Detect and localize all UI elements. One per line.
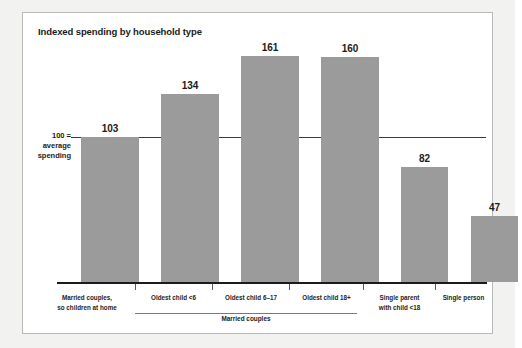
category-label-line: with child <18 <box>364 303 435 313</box>
bar-rect[interactable] <box>321 57 379 282</box>
bar-value-label: 47 <box>451 202 522 213</box>
bar-group-4: 82 <box>401 13 448 282</box>
bar-rect[interactable] <box>241 56 299 282</box>
group-bracket-line <box>135 313 357 314</box>
bar-group-1: 134 <box>161 13 219 282</box>
category-label-line: Oldest child 6–17 <box>213 293 289 303</box>
bar-value-label: 160 <box>301 43 399 54</box>
bar-rect[interactable] <box>401 167 448 282</box>
category-label-4: Single parent with child <18 <box>364 293 435 312</box>
bar-value-label: 82 <box>381 153 468 164</box>
bar-rect[interactable] <box>81 137 139 282</box>
category-label-line: Married couples, <box>45 293 129 303</box>
bar-value-label: 103 <box>61 123 159 134</box>
axis-tick <box>212 284 213 290</box>
category-label-line: Oldest child <6 <box>136 293 211 303</box>
bar-group-5: 47 <box>471 13 518 282</box>
axis-tick <box>289 284 290 290</box>
bars-layer: 103 134 161 160 82 <box>57 13 487 282</box>
group-bracket-label: Married couples <box>135 315 357 322</box>
category-label-1: Oldest child <6 <box>136 293 211 303</box>
bar-rect[interactable] <box>161 94 219 282</box>
bar-group-2: 161 <box>241 13 299 282</box>
plot-area: 100 = average spending 103 134 161 <box>23 13 492 333</box>
category-label-2: Oldest child 6–17 <box>213 293 289 303</box>
axis-tick <box>135 284 136 290</box>
bar-group-0: 103 <box>81 13 139 282</box>
bar-value-label: 134 <box>141 80 239 91</box>
axis-tick <box>363 284 364 290</box>
category-label-3: Oldest child 18+ <box>290 293 363 303</box>
chart-frame: Indexed spending by household type 100 =… <box>22 12 493 334</box>
category-label-line: Single person <box>436 293 491 303</box>
category-label-line: Oldest child 18+ <box>290 293 363 303</box>
bar-group-3: 160 <box>321 13 379 282</box>
bar-rect[interactable] <box>471 216 518 282</box>
x-axis-baseline <box>57 282 487 284</box>
category-label-line: so children at home <box>45 303 129 313</box>
category-label-5: Single person <box>436 293 491 303</box>
category-label-0: Married couples, so children at home <box>45 293 129 312</box>
axis-tick <box>435 284 436 290</box>
category-label-line: Single parent <box>364 293 435 303</box>
